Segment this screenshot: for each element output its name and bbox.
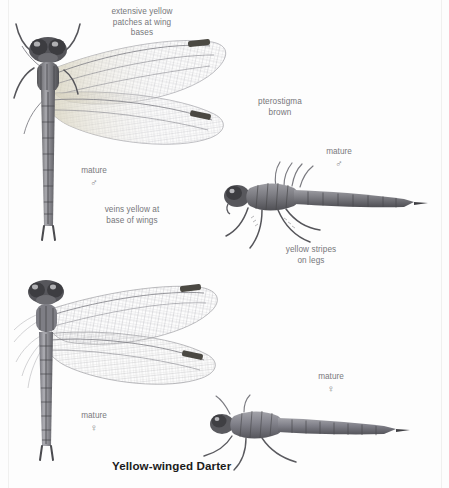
label-female-lateral-stage: mature: [318, 372, 343, 381]
label-male-dorsal-stage: mature: [81, 166, 106, 175]
specimen-female-lateral: [200, 392, 415, 482]
head: [28, 280, 64, 305]
thorax: [246, 183, 298, 211]
head: [224, 185, 250, 214]
specimen-female-dorsal: [14, 272, 229, 472]
label-female-dorsal-stage: mature: [81, 411, 106, 420]
specimen-male-dorsal: [14, 22, 244, 262]
plate-right-margin-rule: [441, 0, 442, 488]
plate-caption: Yellow-winged Darter: [112, 459, 231, 472]
illustration-plate: extensive yellow patches at wing bases p…: [0, 0, 449, 488]
label-female-lateral: mature ♀: [305, 372, 357, 394]
label-male-lateral: mature ♂: [313, 147, 365, 169]
abdomen: [294, 190, 428, 208]
head: [29, 37, 67, 63]
thorax: [230, 411, 282, 439]
legs: [226, 208, 320, 248]
abdomen: [41, 90, 55, 240]
label-male-dorsal: mature ♂: [68, 166, 120, 188]
label-male-lateral-stage: mature: [326, 147, 351, 156]
wing-stubs: [216, 395, 250, 414]
hindwing-right: [43, 332, 215, 384]
wing-stubs: [275, 162, 313, 188]
male-symbol-dorsal: ♂: [68, 177, 120, 188]
annotation-leg-stripes: yellow stripes on legs: [262, 245, 360, 266]
abdomen: [39, 332, 53, 460]
label-female-dorsal: mature ♀: [68, 411, 120, 433]
female-symbol-lateral: ♀: [305, 383, 357, 394]
annotation-pterostigma: pterostigma brown: [232, 97, 328, 118]
plate-left-margin-rule: [8, 0, 9, 488]
hindwing-right: [45, 92, 223, 144]
annotation-veins-yellow: veins yellow at base of wings: [78, 205, 186, 226]
male-symbol-lateral: ♂: [313, 158, 365, 169]
annotation-wing-base-patches: extensive yellow patches at wing bases: [88, 7, 196, 39]
thorax: [36, 304, 57, 332]
thorax: [37, 62, 59, 92]
female-symbol-dorsal: ♀: [68, 422, 120, 433]
abdomen: [278, 418, 410, 435]
